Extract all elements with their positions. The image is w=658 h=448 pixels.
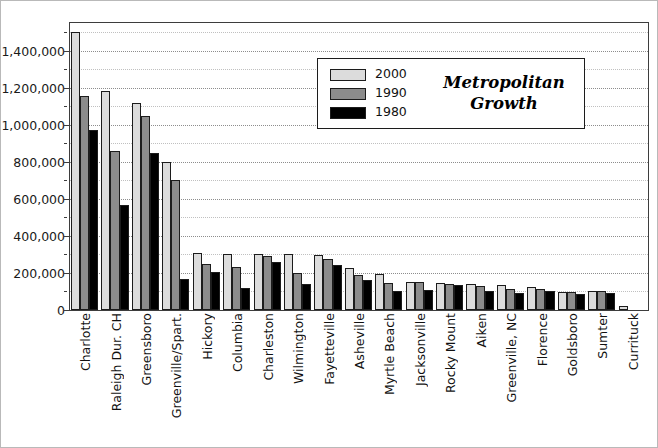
y-tick-label: 1,200,000 bbox=[1, 80, 65, 95]
y-tick-label: 1,000,000 bbox=[1, 117, 65, 132]
y-tick-mark-minor bbox=[64, 254, 67, 255]
x-tick-label: Myrtle Beach bbox=[382, 313, 397, 395]
x-tick-label: Florence bbox=[535, 313, 550, 366]
bar bbox=[314, 255, 323, 310]
bar bbox=[466, 284, 475, 310]
x-tick-label: Rocky Mount bbox=[443, 313, 458, 393]
bar bbox=[597, 291, 606, 310]
x-tick-label: Fayetteville bbox=[322, 313, 337, 385]
bar bbox=[536, 289, 545, 310]
y-axis: 0200,000400,000600,000800,0001,000,0001,… bbox=[1, 1, 65, 448]
bar bbox=[323, 259, 332, 310]
bar bbox=[476, 286, 485, 310]
bar bbox=[171, 180, 180, 310]
legend-title: Metropolitan Growth bbox=[430, 73, 584, 113]
y-tick-mark-minor bbox=[64, 291, 67, 292]
chart-legend: 200019901980 Metropolitan Growth bbox=[317, 58, 585, 129]
bar bbox=[120, 205, 129, 310]
bar bbox=[415, 282, 424, 310]
bar-group bbox=[222, 23, 252, 310]
bar bbox=[363, 280, 372, 310]
bar-group bbox=[587, 23, 617, 310]
bar bbox=[576, 294, 585, 310]
bar-group bbox=[618, 23, 648, 310]
bar bbox=[436, 283, 445, 310]
bar bbox=[241, 288, 250, 310]
bar bbox=[263, 256, 272, 310]
legend-title-line2: Growth bbox=[430, 94, 578, 114]
x-tick-label: Currituck bbox=[626, 313, 641, 370]
bar bbox=[284, 254, 293, 310]
legend-row: 1980 bbox=[330, 103, 430, 122]
bar bbox=[141, 116, 150, 310]
bar bbox=[150, 153, 159, 310]
x-tick-label: Greensboro bbox=[139, 313, 154, 385]
bar bbox=[567, 292, 576, 310]
bar bbox=[393, 291, 402, 310]
y-tick-mark-minor bbox=[64, 217, 67, 218]
y-tick-mark-minor bbox=[64, 143, 67, 144]
bar bbox=[588, 291, 597, 310]
x-tick-label: Wilmington bbox=[291, 313, 306, 384]
bar bbox=[293, 273, 302, 310]
bar bbox=[80, 96, 89, 310]
x-tick-label: Greenville/Spart. bbox=[169, 313, 184, 418]
bar bbox=[71, 32, 80, 310]
bar bbox=[375, 274, 384, 310]
legend-swatch bbox=[330, 88, 366, 100]
legend-row: 2000 bbox=[330, 65, 430, 84]
x-tick-label: Columbia bbox=[230, 313, 245, 372]
x-tick-label: Hickory bbox=[200, 313, 215, 360]
bar-group bbox=[100, 23, 130, 310]
legend-label: 2000 bbox=[375, 68, 407, 81]
x-tick-label: Jacksonville bbox=[413, 313, 428, 386]
bar bbox=[162, 162, 171, 310]
bar bbox=[132, 103, 141, 310]
y-tick-mark-minor bbox=[64, 180, 67, 181]
bar-group bbox=[131, 23, 161, 310]
bar bbox=[232, 267, 241, 310]
bar bbox=[606, 293, 615, 310]
y-tick-mark-minor bbox=[64, 69, 67, 70]
y-tick-mark-minor bbox=[64, 32, 67, 33]
x-tick-label: Sumter bbox=[595, 313, 610, 359]
bar bbox=[545, 291, 554, 310]
bar bbox=[384, 283, 393, 310]
bar bbox=[110, 151, 119, 310]
y-tick-label: 200,000 bbox=[13, 265, 65, 280]
legend-label: 1990 bbox=[375, 87, 407, 100]
x-tick-label: Charleston bbox=[261, 313, 276, 381]
bar bbox=[485, 291, 494, 310]
bar bbox=[424, 290, 433, 310]
bar bbox=[527, 287, 536, 310]
bar-group bbox=[253, 23, 283, 310]
bar bbox=[202, 264, 211, 310]
legend-swatch bbox=[330, 107, 366, 119]
bar-group bbox=[70, 23, 100, 310]
y-tick-label: 400,000 bbox=[13, 228, 65, 243]
bar bbox=[193, 253, 202, 310]
legend-title-line1: Metropolitan bbox=[430, 73, 578, 93]
bar bbox=[506, 289, 515, 310]
bar bbox=[101, 91, 110, 310]
bar bbox=[302, 284, 311, 310]
bar bbox=[515, 293, 524, 310]
bar bbox=[254, 254, 263, 310]
bar bbox=[619, 306, 628, 310]
x-tick-label: Raleigh Dur. CH bbox=[109, 313, 124, 411]
y-tick-mark-minor bbox=[64, 106, 67, 107]
bar bbox=[223, 254, 232, 310]
bar bbox=[333, 265, 342, 310]
bar bbox=[445, 284, 454, 310]
bar bbox=[558, 292, 567, 310]
x-tick-label: Charlotte bbox=[78, 313, 93, 371]
x-tick-label: Asheville bbox=[352, 313, 367, 369]
bar-group bbox=[161, 23, 191, 310]
y-tick-label: 1,400,000 bbox=[1, 43, 65, 58]
bar-group bbox=[192, 23, 222, 310]
bar-group bbox=[283, 23, 313, 310]
x-tick-label: Goldsboro bbox=[565, 313, 580, 376]
bar bbox=[406, 282, 415, 310]
y-tick-label: 800,000 bbox=[13, 154, 65, 169]
bar bbox=[497, 285, 506, 310]
